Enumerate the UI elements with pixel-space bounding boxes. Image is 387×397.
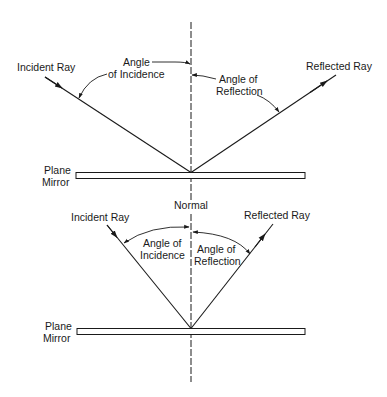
angle-reflection-label-line2-bottom: Reflection bbox=[194, 255, 241, 267]
reflected-ray-label-bottom: Reflected Ray bbox=[244, 209, 311, 221]
angle-reflection-label-line2-top: Reflection bbox=[216, 85, 263, 97]
normal-label: Normal bbox=[174, 199, 208, 211]
incident-ray-arrow-icon-bottom bbox=[107, 225, 117, 238]
plane-mirror-label-line2-top: Mirror bbox=[42, 176, 70, 188]
plane-mirror-label-line1-top: Plane bbox=[44, 164, 71, 176]
angle-incidence-label-line2-top: of Incidence bbox=[108, 68, 165, 80]
angle-incidence-label-line1-top: Angle bbox=[123, 56, 150, 68]
reflected-ray-label-top: Reflected Ray bbox=[306, 60, 373, 72]
incident-ray-label-top: Incident Ray bbox=[17, 61, 76, 73]
angle-reflection-label-line1-bottom: Angle of bbox=[197, 243, 236, 255]
incident-ray-label-bottom: Incident Ray bbox=[71, 211, 130, 223]
angle-reflection-leader-top bbox=[192, 75, 216, 79]
angle-incidence-label-line2-bottom: Incidence bbox=[140, 249, 185, 261]
plane-mirror-label-line1-bottom: Plane bbox=[45, 320, 72, 332]
reflected-ray-arrow-icon-bottom bbox=[255, 234, 265, 247]
plane-mirror-top bbox=[76, 173, 305, 179]
reflection-diagram: Incident Ray Angle of Incidence Angle of… bbox=[0, 0, 387, 397]
angle-incidence-pointer-top bbox=[79, 74, 107, 98]
top-figure: Incident Ray Angle of Incidence Angle of… bbox=[17, 56, 373, 188]
angle-incidence-label-line1-bottom: Angle of bbox=[143, 237, 182, 249]
angle-incidence-leader-top bbox=[152, 62, 190, 64]
plane-mirror-label-line2-bottom: Mirror bbox=[43, 332, 71, 344]
angle-reflection-label-line1-top: Angle of bbox=[219, 73, 258, 85]
incident-ray-top bbox=[45, 77, 191, 173]
reflected-ray-arrow-icon bbox=[310, 81, 327, 93]
bottom-figure: Normal Incident Ray Angle of Incidence A… bbox=[43, 199, 311, 344]
plane-mirror-bottom bbox=[77, 329, 305, 335]
angle-reflection-pointer-top bbox=[257, 95, 279, 112]
diagram-canvas: Incident Ray Angle of Incidence Angle of… bbox=[0, 0, 387, 397]
incident-ray-arrow-icon bbox=[45, 77, 62, 88]
